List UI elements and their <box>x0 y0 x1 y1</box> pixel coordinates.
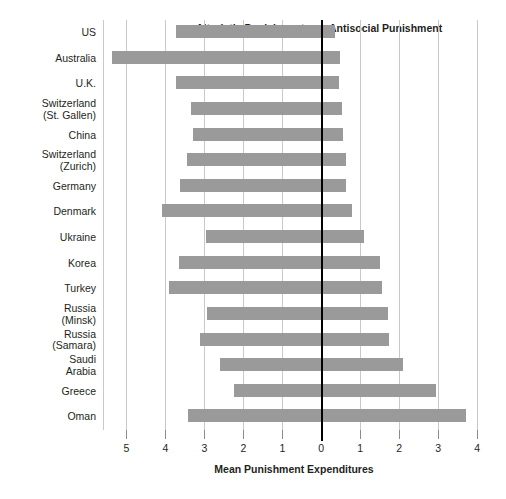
bar-altruistic-punishment <box>220 358 321 371</box>
category-label: U.K. <box>0 78 96 90</box>
x-axis-tick <box>126 430 127 439</box>
bar-antisocial-punishment <box>321 256 379 269</box>
bar-antisocial-punishment <box>321 51 339 64</box>
x-axis-tick-label: 2 <box>396 442 402 454</box>
bar-antisocial-punishment <box>321 230 364 243</box>
bar-antisocial-punishment <box>321 358 403 371</box>
chart-row <box>103 379 485 405</box>
x-axis-tick-label: 3 <box>435 442 441 454</box>
bar-altruistic-punishment <box>207 307 321 320</box>
bar-antisocial-punishment <box>321 384 436 397</box>
chart-row <box>103 46 485 72</box>
bar-antisocial-punishment <box>321 102 342 115</box>
category-label: China <box>0 130 96 142</box>
bar-altruistic-punishment <box>200 333 321 346</box>
x-axis-tick <box>204 430 205 439</box>
chart-row <box>103 276 485 302</box>
x-axis-tick-label: 4 <box>474 442 480 454</box>
chart-row <box>103 328 485 354</box>
bar-altruistic-punishment <box>193 128 321 141</box>
category-label: Greece <box>0 386 96 398</box>
bar-altruistic-punishment <box>169 281 321 294</box>
category-label: Germany <box>0 181 96 193</box>
bar-antisocial-punishment <box>321 281 381 294</box>
x-axis: Mean Punishment Expenditures 5432101234 <box>103 430 485 480</box>
zero-axis-line <box>321 20 323 430</box>
x-axis-tick <box>438 430 439 439</box>
bar-altruistic-punishment <box>176 76 322 89</box>
bar-altruistic-punishment <box>187 153 321 166</box>
category-label: Denmark <box>0 206 96 218</box>
chart-row <box>103 404 485 430</box>
chart-row <box>103 199 485 225</box>
bar-antisocial-punishment <box>321 153 346 166</box>
bar-altruistic-punishment <box>112 51 321 64</box>
category-label: Saudi Arabia <box>0 354 96 377</box>
chart-row <box>103 97 485 123</box>
chart-row <box>103 302 485 328</box>
bar-altruistic-punishment <box>188 409 322 422</box>
category-label: Switzerland (St. Gallen) <box>0 98 96 121</box>
bar-antisocial-punishment <box>321 409 465 422</box>
category-label: Turkey <box>0 283 96 295</box>
x-axis-tick-label: 5 <box>123 442 129 454</box>
category-label: Switzerland (Zurich) <box>0 149 96 172</box>
x-axis-title: Mean Punishment Expenditures <box>103 463 485 475</box>
bar-antisocial-punishment <box>321 25 335 38</box>
chart-row <box>103 20 485 46</box>
x-axis-tick-label: 3 <box>201 442 207 454</box>
bar-antisocial-punishment <box>321 179 346 192</box>
chart-row <box>103 251 485 277</box>
x-axis-tick-label: 1 <box>279 442 285 454</box>
bar-altruistic-punishment <box>206 230 321 243</box>
chart-row <box>103 148 485 174</box>
x-axis-tick-label: 4 <box>162 442 168 454</box>
chart-row <box>103 71 485 97</box>
bar-antisocial-punishment <box>321 128 342 141</box>
chart-row <box>103 353 485 379</box>
punishment-expenditures-chart: Altruistic Punishment Antisocial Punishm… <box>0 0 506 499</box>
x-axis-tick-label: 2 <box>240 442 246 454</box>
bar-altruistic-punishment <box>234 384 322 397</box>
category-label: Australia <box>0 53 96 65</box>
x-axis-tick <box>165 430 166 439</box>
category-label: US <box>0 27 96 39</box>
category-label: Ukraine <box>0 232 96 244</box>
category-label: Russia (Minsk) <box>0 303 96 326</box>
x-axis-tick <box>321 430 323 441</box>
chart-row <box>103 225 485 251</box>
chart-row <box>103 174 485 200</box>
category-axis-labels: USAustraliaU.K.Switzerland (St. Gallen)C… <box>0 20 96 430</box>
category-label: Korea <box>0 258 96 270</box>
category-label: Oman <box>0 411 96 423</box>
chart-row <box>103 123 485 149</box>
bar-altruistic-punishment <box>162 204 321 217</box>
bar-antisocial-punishment <box>321 76 339 89</box>
bar-altruistic-punishment <box>180 179 321 192</box>
x-axis-tick <box>477 430 478 439</box>
x-axis-tick-label: 0 <box>318 442 324 454</box>
category-label: Russia (Samara) <box>0 329 96 352</box>
x-axis-tick <box>399 430 400 439</box>
plot-area <box>103 20 485 430</box>
bar-antisocial-punishment <box>321 204 352 217</box>
x-axis-tick <box>243 430 244 439</box>
bar-altruistic-punishment <box>176 25 321 38</box>
bar-altruistic-punishment <box>191 102 321 115</box>
x-axis-tick <box>282 430 283 439</box>
bar-antisocial-punishment <box>321 307 387 320</box>
x-axis-tick-label: 1 <box>357 442 363 454</box>
bar-antisocial-punishment <box>321 333 389 346</box>
bar-altruistic-punishment <box>179 256 321 269</box>
x-axis-tick <box>360 430 361 439</box>
